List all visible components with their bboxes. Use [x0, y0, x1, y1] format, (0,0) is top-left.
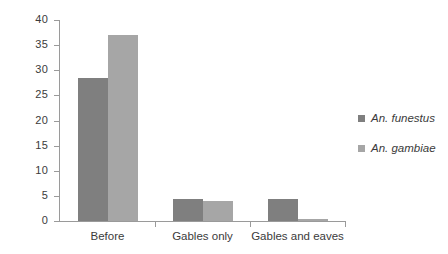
legend-swatch-icon — [358, 145, 365, 152]
x-axis-category-label: Gables only — [155, 230, 250, 243]
x-axis-category-label: Before — [60, 230, 155, 243]
x-axis-tick — [250, 222, 251, 227]
y-axis-tick-label: 35 — [22, 39, 48, 50]
bar-gables-only-an-funestus — [173, 199, 203, 221]
legend-swatch-icon — [358, 115, 365, 122]
y-axis-tick-label: 5 — [22, 190, 48, 201]
y-axis-tick-labels: 0510152025303540 — [22, 0, 48, 254]
y-axis-tick — [54, 196, 59, 197]
y-axis-tick — [54, 95, 59, 96]
chart-legend: An. funestusAn. gambiae — [358, 108, 448, 168]
legend-item[interactable]: An. funestus — [358, 108, 448, 128]
bar-gables-and-eaves-an-gambiae — [298, 219, 328, 222]
y-axis-tick-label: 0 — [22, 215, 48, 226]
y-axis-tick-label: 10 — [22, 165, 48, 176]
x-axis-line — [59, 221, 346, 222]
y-axis-tick — [54, 146, 59, 147]
plot-area — [60, 20, 345, 221]
bar-before-an-gambiae — [108, 35, 138, 221]
y-axis-tick-label: 30 — [22, 64, 48, 75]
legend-label: An. gambiae — [371, 142, 436, 155]
x-axis-tick — [155, 222, 156, 227]
y-axis-tick — [54, 20, 59, 21]
y-axis-tick — [54, 45, 59, 46]
bar-gables-and-eaves-an-funestus — [268, 199, 298, 221]
y-axis-tick-label: 20 — [22, 115, 48, 126]
y-axis-tick-label: 15 — [22, 140, 48, 151]
y-axis-tick-label: 40 — [22, 14, 48, 25]
x-axis-tick-end — [345, 222, 346, 227]
bar-before-an-funestus — [78, 78, 108, 221]
y-axis-tick — [54, 171, 59, 172]
x-axis-category-label: Gables and eaves — [250, 230, 345, 243]
y-axis-tick — [54, 221, 59, 222]
legend-item[interactable]: An. gambiae — [358, 138, 448, 158]
y-axis-tick-label: 25 — [22, 89, 48, 100]
bar-gables-only-an-gambiae — [203, 201, 233, 221]
y-axis-tick — [54, 70, 59, 71]
bar-chart: 0510152025303540 BeforeGables onlyGables… — [0, 0, 448, 254]
y-axis-tick — [54, 121, 59, 122]
legend-label: An. funestus — [371, 112, 435, 125]
